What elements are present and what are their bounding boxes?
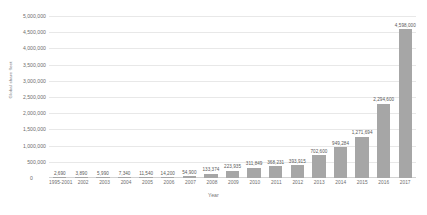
x-axis-tick-label: 2013: [309, 180, 330, 185]
bar[interactable]: [247, 168, 260, 178]
bar-value-label: 2,294,600: [373, 97, 394, 102]
bar-value-label: 702,600: [310, 149, 327, 154]
bar[interactable]: [161, 177, 174, 178]
x-axis-tick-label: 2002: [72, 180, 93, 185]
bar[interactable]: [399, 29, 412, 178]
x-axis-ticks: 1995-20012002200320042005200620072008200…: [49, 180, 416, 185]
bar-value-label: 11,540: [139, 171, 153, 176]
x-axis-tick-label: 2010: [244, 180, 265, 185]
y-axis-tick-label: 3,000,000: [2, 78, 46, 84]
bar-chart: Global share fleet 2,6903,8905,9907,3401…: [0, 0, 427, 215]
bar-slot: 14,200: [157, 16, 179, 178]
bar[interactable]: [75, 177, 88, 178]
bar-slot: 5,990: [92, 16, 114, 178]
x-axis-tick-label: 2014: [330, 180, 351, 185]
bar-series: 2,6903,8905,9907,34011,54014,20054,90013…: [49, 16, 416, 178]
x-axis-tick-label: 2009: [223, 180, 244, 185]
y-axis-tick-label: 2,500,000: [2, 94, 46, 100]
x-axis-tick-label: 2005: [137, 180, 158, 185]
x-axis-tick-label: 2015: [351, 180, 372, 185]
bar[interactable]: [53, 177, 66, 178]
bar[interactable]: [377, 104, 390, 178]
bar[interactable]: [183, 176, 196, 178]
bar-slot: 2,294,600: [373, 16, 395, 178]
bar-value-label: 368,231: [267, 160, 284, 165]
x-axis-tick-label: 2012: [287, 180, 308, 185]
bar-value-label: 133,374: [202, 167, 219, 172]
bar-value-label: 5,990: [97, 171, 109, 176]
x-axis-title: Year: [0, 192, 427, 198]
y-axis-tick-label: 3,500,000: [2, 62, 46, 68]
x-axis-tick-label: 2008: [201, 180, 222, 185]
bar[interactable]: [334, 147, 347, 178]
bar-slot: 2,690: [49, 16, 71, 178]
bar-value-label: 4,598,000: [395, 23, 416, 28]
bar-slot: 949,284: [330, 16, 352, 178]
bar-value-label: 7,340: [119, 171, 131, 176]
bar[interactable]: [204, 174, 217, 178]
x-axis-tick-label: 2011: [266, 180, 287, 185]
x-axis-tick-label: 2003: [94, 180, 115, 185]
bar-slot: 368,231: [265, 16, 287, 178]
bar[interactable]: [118, 177, 131, 178]
bar[interactable]: [355, 137, 368, 178]
x-axis-tick-label: 2016: [373, 180, 394, 185]
bar-slot: 133,374: [200, 16, 222, 178]
bar[interactable]: [226, 171, 239, 178]
x-axis-tick-label: 1995-2001: [49, 180, 72, 185]
bar-slot: 393,915: [287, 16, 309, 178]
bar-slot: 54,900: [179, 16, 201, 178]
y-axis-tick-label: 4,500,000: [2, 29, 46, 35]
bar-slot: 3,890: [71, 16, 93, 178]
bar-slot: 11,540: [135, 16, 157, 178]
bar[interactable]: [269, 166, 282, 178]
bar-slot: 4,598,000: [395, 16, 417, 178]
y-axis-zero-label: 0: [30, 175, 33, 181]
bar-value-label: 223,935: [224, 164, 241, 169]
bar-value-label: 14,200: [161, 171, 175, 176]
x-axis-tick-label: 2017: [394, 180, 415, 185]
bar[interactable]: [139, 177, 152, 178]
bar[interactable]: [96, 177, 109, 178]
bar-slot: 702,600: [308, 16, 330, 178]
plot-area: 2,6903,8905,9907,34011,54014,20054,90013…: [49, 16, 416, 178]
x-axis-tick-label: 2004: [115, 180, 136, 185]
bar-value-label: 311,849: [246, 161, 263, 166]
y-axis-tick-label: 2,000,000: [2, 110, 46, 116]
bar[interactable]: [312, 155, 325, 178]
bar-value-label: 54,900: [182, 170, 196, 175]
bar-slot: 1,271,694: [351, 16, 373, 178]
x-axis-tick-label: 2006: [158, 180, 179, 185]
y-axis-tick-label: 500,000: [2, 159, 46, 165]
bar-value-label: 393,915: [289, 159, 306, 164]
bar[interactable]: [291, 165, 304, 178]
bar-slot: 223,935: [222, 16, 244, 178]
y-axis-tick-label: 5,000,000: [2, 13, 46, 19]
bar-value-label: 3,890: [76, 171, 88, 176]
bar-value-label: 2,690: [54, 171, 66, 176]
bar-slot: 311,849: [243, 16, 265, 178]
y-axis-tick-label: 1,500,000: [2, 126, 46, 132]
bar-slot: 7,340: [114, 16, 136, 178]
bar-value-label: 1,271,694: [352, 130, 373, 135]
y-axis-tick-label: 4,000,000: [2, 45, 46, 51]
x-axis-tick-label: 2007: [180, 180, 201, 185]
bar-value-label: 949,284: [332, 141, 349, 146]
y-axis-tick-label: 1,000,000: [2, 143, 46, 149]
